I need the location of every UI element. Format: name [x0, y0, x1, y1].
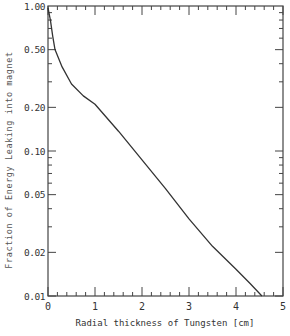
- y-tick-label: 0.20: [24, 102, 46, 113]
- x-tick-label: 2: [139, 301, 145, 312]
- x-tick-label: 1: [92, 301, 98, 312]
- chart-canvas: 0123450.010.020.050.100.200.501.00: [0, 0, 290, 336]
- x-tick-label: 3: [186, 301, 192, 312]
- y-tick-label: 0.50: [24, 44, 46, 55]
- y-tick-label: 0.01: [24, 291, 46, 302]
- y-axis-label-wrap: Fraction of Energy Leaking into magnet: [0, 0, 18, 336]
- x-tick-label: 0: [45, 301, 51, 312]
- y-axis-label: Fraction of Energy Leaking into magnet: [4, 51, 14, 268]
- x-axis-label: Radial thickness of Tungsten [cm]: [76, 318, 255, 328]
- data-curve: [48, 8, 262, 296]
- plot-frame: [48, 6, 283, 296]
- y-tick-label: 0.10: [24, 146, 46, 157]
- y-tick-label: 0.02: [24, 247, 45, 258]
- y-tick-label: 0.05: [24, 189, 45, 200]
- x-tick-label: 5: [280, 301, 286, 312]
- y-tick-label: 1.00: [24, 1, 46, 12]
- x-tick-label: 4: [233, 301, 239, 312]
